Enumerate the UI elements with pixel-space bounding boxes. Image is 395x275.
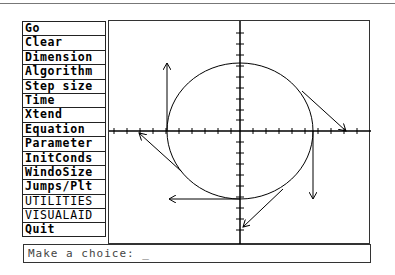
menu-item-parameter[interactable]: Parameter (22, 136, 106, 150)
menu-item-time[interactable]: Time (22, 93, 106, 107)
menu-item-initconds[interactable]: InitConds (22, 151, 106, 165)
command-prompt[interactable]: Make a choice: _ (23, 244, 371, 263)
menu-item-algorithm[interactable]: Algorithm (22, 64, 106, 78)
main-menu: Go Clear Dimension Algorithm Step size T… (22, 21, 106, 237)
axes (109, 21, 371, 245)
menu-item-windosize[interactable]: WindoSize (22, 165, 106, 179)
menu-item-xtend[interactable]: Xtend (22, 107, 106, 121)
menu-item-dimension[interactable]: Dimension (22, 50, 106, 64)
top-divider (0, 3, 395, 4)
menu-item-step-size[interactable]: Step size (22, 79, 106, 93)
phase-plot-canvas (109, 21, 371, 245)
menu-item-go[interactable]: Go (22, 21, 106, 35)
menu-item-utilities[interactable]: UTILITIES (22, 194, 106, 208)
menu-item-clear[interactable]: Clear (22, 35, 106, 49)
phase-plot (108, 20, 370, 244)
menu-item-visualaid[interactable]: VISUALAID (22, 208, 106, 222)
menu-item-quit[interactable]: Quit (22, 222, 106, 236)
menu-item-jumps-plt[interactable]: Jumps/Plt (22, 179, 106, 193)
menu-item-equation[interactable]: Equation (22, 122, 106, 136)
